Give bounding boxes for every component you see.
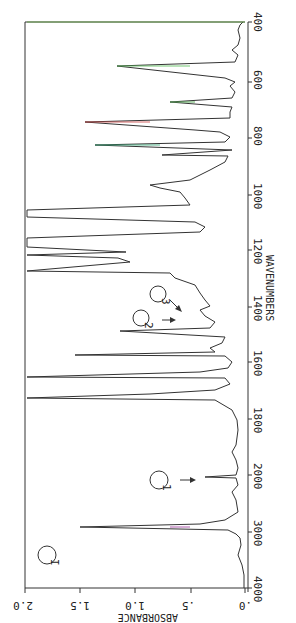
tick-600: 600 <box>251 70 264 90</box>
absorbance-axis-title: ABSORBANCE <box>118 612 178 623</box>
absorbance-tick-labels: 2.0 1.5 1.0 .5 .0 <box>13 599 252 612</box>
wavenumber-tick-labels: 4000 3000 2000 1800 1600 1400 1200 1000 … <box>251 12 264 603</box>
tick-0.0: .0 <box>239 599 252 612</box>
panel-label: I <box>38 546 61 566</box>
tick-1.5: 1.5 <box>70 599 90 612</box>
annotation-2: 2 <box>133 310 176 329</box>
tick-800: 800 <box>251 126 264 146</box>
wavenumber-axis-title: WAVENUMBERS <box>264 255 275 321</box>
svg-text:2: 2 <box>142 322 155 329</box>
tick-1200: 1200 <box>251 238 264 265</box>
plot-frame <box>25 22 248 592</box>
tick-1000: 1000 <box>251 183 264 210</box>
tick-2000: 2000 <box>251 463 264 490</box>
tick-0.5: .5 <box>182 599 195 612</box>
tick-1800: 1800 <box>251 407 264 434</box>
svg-text:1: 1 <box>160 484 173 491</box>
panel-label-text: I <box>48 559 61 566</box>
color-fringes <box>27 22 245 527</box>
annotation-3: 3 <box>150 286 182 312</box>
tick-1.0: 1.0 <box>125 599 145 612</box>
tick-1600: 1600 <box>251 350 264 377</box>
ir-spectrum-chart: 2.0 1.5 1.0 .5 .0 ABSORBANCE 4000 3000 2… <box>0 0 296 623</box>
tick-400: 400 <box>251 12 264 32</box>
absorbance-axis-ticks <box>25 588 245 593</box>
spectrum-trace <box>27 22 244 588</box>
annotation-1: 1 <box>150 471 196 491</box>
tick-2.0: 2.0 <box>13 599 33 612</box>
svg-text:3: 3 <box>159 298 172 305</box>
tick-3000: 3000 <box>251 520 264 547</box>
tick-1400: 1400 <box>251 295 264 322</box>
tick-4000: 4000 <box>251 576 264 603</box>
